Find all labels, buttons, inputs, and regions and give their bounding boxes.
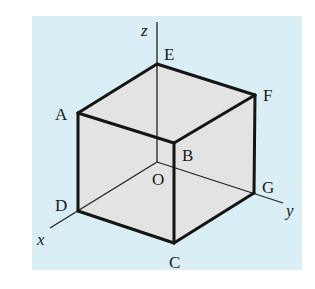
edge-F-G [254,95,255,193]
vertex-label-D: D [55,196,67,215]
vertex-label-E: E [164,45,174,64]
cube-diagram: E F A B O G D C z y x [0,0,315,289]
axis-label-z: z [140,21,148,40]
vertex-label-A: A [55,105,68,124]
vertex-label-F: F [263,86,272,105]
vertex-label-B: B [182,146,193,165]
vertex-label-O: O [152,170,164,189]
vertex-label-C: C [169,253,180,272]
axis-label-y: y [284,201,294,220]
axis-label-x: x [36,230,45,249]
vertex-label-G: G [262,178,274,197]
